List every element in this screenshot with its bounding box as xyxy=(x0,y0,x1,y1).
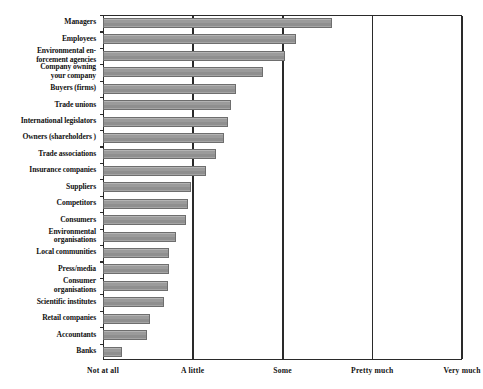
bar-row xyxy=(103,16,462,32)
category-axis: ManagersEmployeesEnvironmental en-forcem… xyxy=(0,15,100,360)
bar-row xyxy=(103,312,462,328)
bar xyxy=(103,133,224,143)
bar xyxy=(103,232,176,242)
bar xyxy=(103,347,122,357)
bar-series xyxy=(103,15,462,360)
bar-row xyxy=(103,164,462,180)
bar-row xyxy=(103,32,462,48)
category-label: Trade unions xyxy=(0,101,96,110)
value-tick-label: Some xyxy=(273,366,292,375)
bar xyxy=(103,67,263,77)
category-label: Accountants xyxy=(0,331,96,340)
bar-row xyxy=(103,328,462,344)
bar xyxy=(103,281,168,291)
category-label-line: Buyers (firms) xyxy=(0,84,96,93)
category-label: Consumerorganisations xyxy=(0,277,96,294)
bar-row xyxy=(103,65,462,81)
bar-row xyxy=(103,197,462,213)
bar xyxy=(103,248,169,258)
value-axis-labels: Not at allA littleSomePretty muchVery mu… xyxy=(0,366,483,382)
bar xyxy=(103,166,206,176)
category-label: Employees xyxy=(0,35,96,44)
bar-row xyxy=(103,345,462,361)
bar xyxy=(103,34,296,44)
bar-row xyxy=(103,213,462,229)
category-label-line: Competitors xyxy=(0,199,96,208)
category-label-line: Press/media xyxy=(0,265,96,274)
category-label-line: International legislators xyxy=(0,117,96,126)
category-label: Banks xyxy=(0,347,96,356)
bar xyxy=(103,264,169,274)
category-label-line: Owners (shareholders ) xyxy=(0,133,96,142)
bar-row xyxy=(103,82,462,98)
bar-row xyxy=(103,230,462,246)
value-tick-label: Very much xyxy=(443,366,480,375)
category-label: Buyers (firms) xyxy=(0,84,96,93)
category-label: Suppliers xyxy=(0,183,96,192)
category-label: Environmentalorganisations xyxy=(0,228,96,245)
category-label: International legislators xyxy=(0,117,96,126)
category-label-line: Local communities xyxy=(0,248,96,257)
category-label: Managers xyxy=(0,18,96,27)
bar-row xyxy=(103,180,462,196)
category-label: Press/media xyxy=(0,265,96,274)
category-label-line: organisations xyxy=(0,286,96,295)
bar-row xyxy=(103,262,462,278)
category-label-line: Banks xyxy=(0,347,96,356)
category-label: Consumers xyxy=(0,216,96,225)
bar xyxy=(103,215,186,225)
bar xyxy=(103,199,188,209)
category-label-line: Insurance companies xyxy=(0,166,96,175)
category-label-line: Trade associations xyxy=(0,150,96,159)
category-label-line: Scientific institutes xyxy=(0,298,96,307)
bar-row xyxy=(103,115,462,131)
category-label: Retail companies xyxy=(0,314,96,323)
value-tick-label: Pretty much xyxy=(351,366,393,375)
bar-row xyxy=(103,246,462,262)
category-label: Scientific institutes xyxy=(0,298,96,307)
category-label-line: Trade unions xyxy=(0,101,96,110)
category-label-line: Accountants xyxy=(0,331,96,340)
bar xyxy=(103,330,147,340)
bar xyxy=(103,117,228,127)
bar-row xyxy=(103,279,462,295)
category-label: Competitors xyxy=(0,199,96,208)
bar-row xyxy=(103,49,462,65)
horizontal-bar-chart: ManagersEmployeesEnvironmental en-forcem… xyxy=(0,0,483,389)
bar xyxy=(103,314,150,324)
category-label-line: your company xyxy=(0,72,96,81)
category-label-line: Suppliers xyxy=(0,183,96,192)
category-label: Owners (shareholders ) xyxy=(0,133,96,142)
category-label: Company owningyour company xyxy=(0,63,96,80)
category-label-line: organisations xyxy=(0,236,96,245)
bar xyxy=(103,18,332,28)
value-tick-label: Not at all xyxy=(87,366,119,375)
category-label-line: Managers xyxy=(0,18,96,27)
category-label: Insurance companies xyxy=(0,166,96,175)
bar-row xyxy=(103,295,462,311)
bar xyxy=(103,84,236,94)
bar xyxy=(103,297,164,307)
category-label: Trade associations xyxy=(0,150,96,159)
category-label: Local communities xyxy=(0,248,96,257)
bar xyxy=(103,100,231,110)
category-label-line: Retail companies xyxy=(0,314,96,323)
bar xyxy=(103,51,285,61)
bar-row xyxy=(103,131,462,147)
category-label-line: Consumers xyxy=(0,216,96,225)
bar-row xyxy=(103,147,462,163)
bar xyxy=(103,182,191,192)
value-tick-label: A little xyxy=(181,366,204,375)
bar xyxy=(103,149,216,159)
category-label-line: Employees xyxy=(0,35,96,44)
bar-row xyxy=(103,98,462,114)
